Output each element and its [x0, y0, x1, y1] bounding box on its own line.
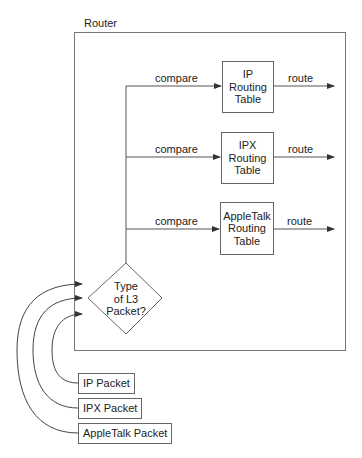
ip-routing-table-line2: Routing — [229, 81, 267, 94]
compare-label-ip: compare — [155, 72, 198, 84]
decision-line2: of L3 — [96, 293, 156, 306]
ipx-routing-table-line1: IPX — [229, 139, 267, 152]
diagram-lines — [0, 0, 362, 458]
appletalk-routing-table-line3: Table — [223, 235, 271, 248]
route-label-appletalk: route — [287, 215, 312, 227]
ip-packet: IP Packet — [78, 373, 135, 394]
appletalk-routing-table-line1: AppleTalk — [223, 210, 271, 223]
appletalk-routing-table-line2: Routing — [223, 222, 271, 235]
appletalk-routing-table: AppleTalk Routing Table — [220, 202, 274, 255]
incoming-arrow-appletalk — [17, 284, 82, 433]
route-label-ip: route — [288, 72, 313, 84]
ip-routing-table-line1: IP — [229, 68, 267, 81]
ipx-routing-table-line3: Table — [229, 164, 267, 177]
ipx-packet: IPX Packet — [78, 398, 142, 419]
ipx-routing-table: IPX Routing Table — [221, 132, 274, 184]
ip-routing-table-line3: Table — [229, 93, 267, 106]
router-label: Router — [84, 17, 117, 29]
ipx-routing-table-line2: Routing — [229, 152, 267, 165]
compare-label-ipx: compare — [155, 143, 198, 155]
decision-label: Type of L3 Packet? — [96, 280, 156, 318]
decision-line3: Packet? — [96, 305, 156, 318]
appletalk-packet: AppleTalk Packet — [78, 423, 172, 444]
compare-label-appletalk: compare — [155, 215, 198, 227]
route-label-ipx: route — [288, 143, 313, 155]
ip-routing-table: IP Routing Table — [222, 61, 274, 113]
decision-line1: Type — [96, 280, 156, 293]
